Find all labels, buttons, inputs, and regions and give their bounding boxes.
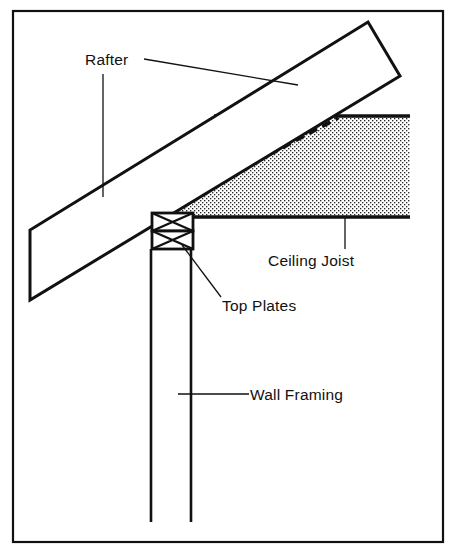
diagram-canvas: Rafter Ceiling Joist Top Plates Wall Fra… [0,0,456,555]
label-ceiling-joist: Ceiling Joist [268,252,355,269]
leader-line-rafter-diagonal [144,59,298,85]
top-plates-group [152,213,193,249]
leader-line-top-plates [182,245,221,297]
label-rafter: Rafter [85,51,128,68]
label-wall-framing: Wall Framing [250,386,343,403]
framing-detail-diagram: Rafter Ceiling Joist Top Plates Wall Fra… [0,0,456,555]
label-top-plates: Top Plates [222,297,296,314]
